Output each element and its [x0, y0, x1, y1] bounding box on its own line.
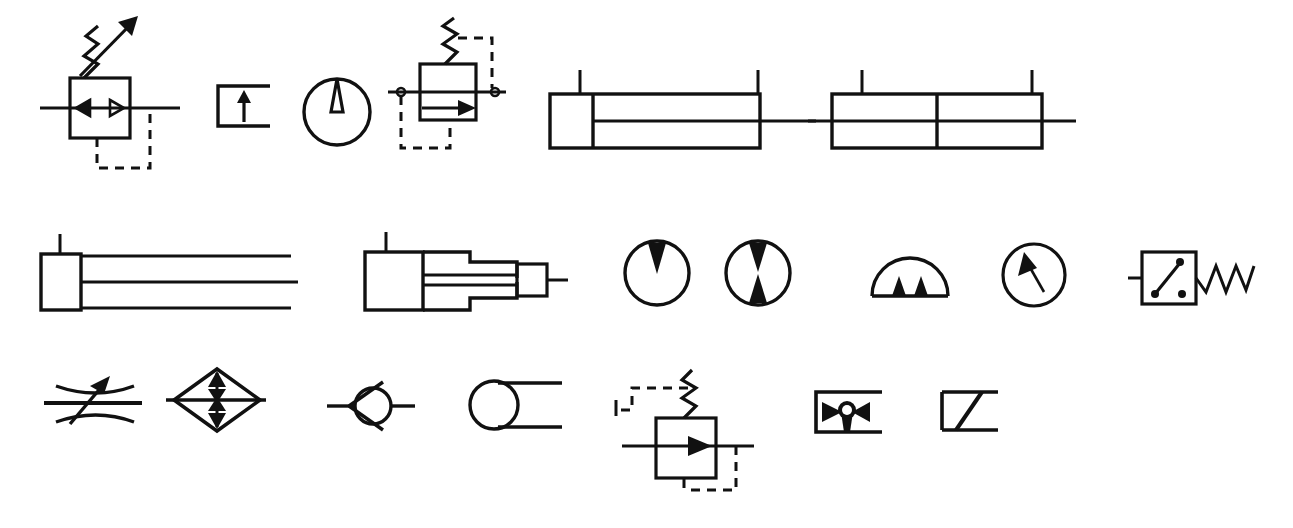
symbol-double-rod-cylinder — [830, 64, 1080, 174]
symbol-double-acting-cylinder — [548, 64, 818, 174]
symbol-flow-path-box-diagonal — [938, 388, 1008, 436]
symbol-sequence-valve-piloted — [612, 372, 772, 502]
symbol-telescoping-cylinder — [362, 230, 572, 320]
symbol-single-acting-cylinder-open — [38, 230, 308, 320]
symbol-pressure-gauge-needle — [1000, 240, 1070, 312]
symbol-pressure-reducing-valve-piloted — [388, 18, 528, 178]
symbol-pump-half-circle-dual — [868, 254, 952, 304]
symbol-sheet: Hydraulic and Pneumatic Schematic Symbol… — [0, 0, 1293, 528]
symbol-pump-unidirectional — [622, 236, 694, 310]
symbol-gauge-pointer-up — [301, 72, 377, 150]
symbol-check-valve-ball-seat — [325, 378, 417, 434]
symbol-filter-with-arrow — [212, 82, 282, 138]
symbol-shuttle-valve — [808, 388, 890, 438]
symbol-check-valve-bridge — [170, 365, 266, 435]
symbol-pressure-switch-spring — [1128, 248, 1258, 310]
symbol-pump-bidirectional — [723, 236, 795, 310]
symbol-accumulator-circle — [468, 378, 564, 434]
symbol-pressure-relief-valve-adjustable — [40, 10, 230, 190]
symbol-adjustable-restrictor — [44, 366, 164, 434]
